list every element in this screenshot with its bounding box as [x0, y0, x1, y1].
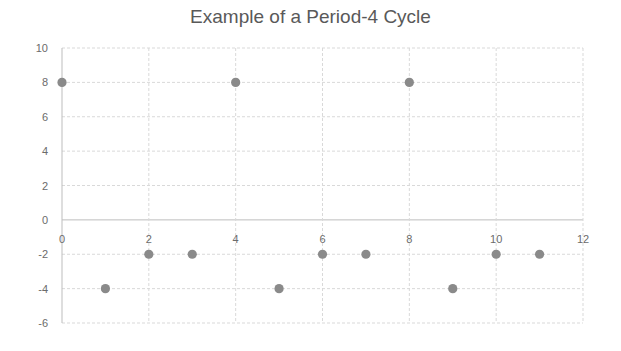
y-tick-label: 6 [42, 111, 48, 123]
x-tick-label: 12 [577, 233, 589, 245]
x-tick-label: 2 [146, 233, 152, 245]
data-point [144, 250, 153, 259]
y-tick-label: 2 [42, 180, 48, 192]
y-tick-label: 8 [42, 76, 48, 88]
y-tick-label: 10 [36, 42, 48, 54]
data-point [405, 78, 414, 87]
data-point [492, 250, 501, 259]
scatter-plot: 1086420-2-4-6024681012 [0, 0, 621, 351]
x-tick-label: 8 [406, 233, 412, 245]
data-point [101, 284, 110, 293]
data-point [274, 284, 283, 293]
x-tick-label: 4 [233, 233, 239, 245]
data-point [57, 78, 66, 87]
y-tick-label: -6 [38, 317, 48, 329]
y-tick-label: -2 [38, 248, 48, 260]
data-point [318, 250, 327, 259]
y-tick-label: 4 [42, 145, 48, 157]
x-tick-label: 10 [490, 233, 502, 245]
data-point [361, 250, 370, 259]
data-point [535, 250, 544, 259]
x-tick-label: 6 [319, 233, 325, 245]
data-point [448, 284, 457, 293]
y-tick-label: -4 [38, 283, 48, 295]
data-point [231, 78, 240, 87]
data-point [188, 250, 197, 259]
x-tick-label: 0 [59, 233, 65, 245]
y-tick-label: 0 [42, 214, 48, 226]
